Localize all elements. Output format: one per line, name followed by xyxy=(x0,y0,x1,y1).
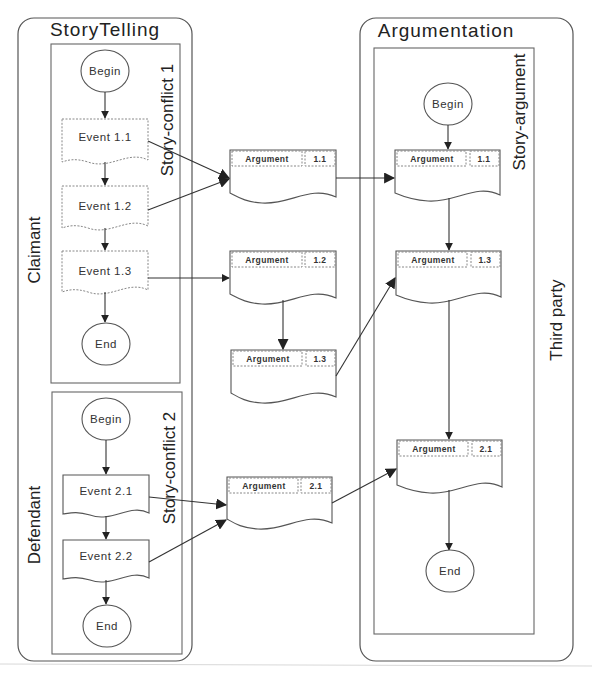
defendant-end-node[interactable]: End xyxy=(83,605,131,647)
svg-text:Argument: Argument xyxy=(242,481,285,491)
svg-text:Event 2.1: Event 2.1 xyxy=(79,485,132,497)
event-2-2-node[interactable]: Event 2.2 xyxy=(63,540,149,582)
svg-text:Event 1.2: Event 1.2 xyxy=(78,200,131,212)
edge-argument-1-3-to-story xyxy=(336,278,395,376)
svg-text:1.3: 1.3 xyxy=(478,255,491,265)
event-1-2-node[interactable]: Event 1.2 xyxy=(62,186,148,230)
scan-line xyxy=(0,664,592,666)
svg-text:Argument: Argument xyxy=(410,154,453,164)
story-conflict-1-label: Story-conflict 1 xyxy=(158,64,177,176)
story-conflict-2-label: Story-conflict 2 xyxy=(160,412,179,524)
middle-argument-1-1[interactable]: Argument 1.1 xyxy=(230,150,336,203)
svg-text:1.2: 1.2 xyxy=(313,255,326,265)
event-1-3-node[interactable]: Event 1.3 xyxy=(62,251,148,294)
middle-argument-2-1[interactable]: Argument 2.1 xyxy=(227,477,332,529)
svg-text:Begin: Begin xyxy=(89,65,121,77)
svg-text:Event 1.1: Event 1.1 xyxy=(78,131,131,143)
svg-text:Event 2.2: Event 2.2 xyxy=(79,550,132,562)
middle-argument-1-3[interactable]: Argument 1.3 xyxy=(231,350,336,403)
argumentation-end-node[interactable]: End xyxy=(426,550,474,592)
claimant-end-node[interactable]: End xyxy=(82,323,130,365)
event-1-1-node[interactable]: Event 1.1 xyxy=(62,119,148,164)
middle-argument-1-2[interactable]: Argument 1.2 xyxy=(230,251,336,304)
defendant-lane: Defendant Story-conflict 2 Begin Event 2… xyxy=(25,392,182,654)
svg-text:2.1: 2.1 xyxy=(479,444,492,454)
edge-event-1-2-to-argument-1-1 xyxy=(148,179,229,210)
svg-text:1.3: 1.3 xyxy=(313,354,326,364)
story-argument-1-3[interactable]: Argument 1.3 xyxy=(396,251,501,303)
edge-argument-2-1-to-story xyxy=(332,469,396,503)
svg-text:Argument: Argument xyxy=(412,444,455,454)
story-argument-1-1[interactable]: Argument 1.1 xyxy=(395,150,500,201)
svg-text:2.1: 2.1 xyxy=(309,481,322,491)
svg-text:Argument: Argument xyxy=(246,354,289,364)
svg-text:End: End xyxy=(95,338,117,350)
svg-text:End: End xyxy=(96,620,118,632)
defendant-label: Defendant xyxy=(25,485,44,564)
svg-text:Begin: Begin xyxy=(90,413,122,425)
svg-text:Argument: Argument xyxy=(411,255,454,265)
event-2-1-node[interactable]: Event 2.1 xyxy=(63,475,149,517)
svg-text:Begin: Begin xyxy=(432,98,464,110)
storytelling-title: StoryTelling xyxy=(50,19,160,40)
argumentation-title: Argumentation xyxy=(378,20,515,41)
third-party-label: Third party xyxy=(547,279,566,361)
svg-text:Argument: Argument xyxy=(245,255,288,265)
claimant-begin-node[interactable]: Begin xyxy=(81,50,129,92)
svg-text:1.1: 1.1 xyxy=(477,154,490,164)
claimant-label: Claimant xyxy=(25,216,44,283)
diagram-canvas: StoryTelling Claimant Story-conflict 1 B… xyxy=(0,0,592,678)
story-argument-2-1[interactable]: Argument 2.1 xyxy=(397,440,502,493)
svg-text:Event 1.3: Event 1.3 xyxy=(78,265,131,277)
argumentation-begin-node[interactable]: Begin xyxy=(424,83,472,125)
svg-text:Argument: Argument xyxy=(245,154,288,164)
claimant-lane: Claimant Story-conflict 1 Begin Event 1.… xyxy=(25,44,180,383)
svg-text:End: End xyxy=(439,565,461,577)
svg-text:1.1: 1.1 xyxy=(313,154,326,164)
edge-event-2-2-to-argument-2-1 xyxy=(149,520,226,562)
story-argument-label: Story-argument xyxy=(510,53,529,170)
defendant-begin-node[interactable]: Begin xyxy=(82,398,130,440)
